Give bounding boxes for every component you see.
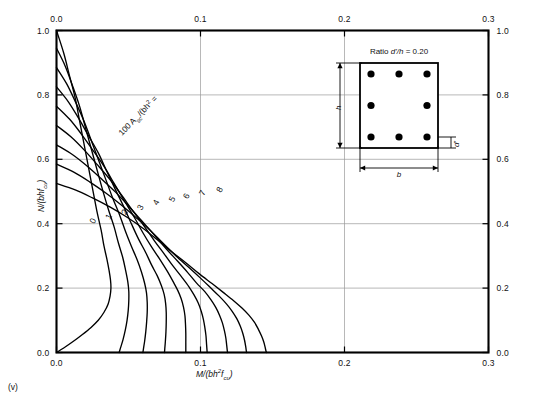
rebar-dot: [423, 102, 430, 109]
tick-label: 0.0: [37, 348, 49, 358]
tick-label: 0.3: [482, 358, 494, 368]
rebar-dot: [367, 70, 374, 77]
rebar-dot: [423, 70, 430, 77]
figure-caption: (v): [8, 382, 18, 392]
rebar-dot: [423, 133, 430, 140]
rebar-dot: [395, 70, 402, 77]
column-interaction-chart: 012345678100 Asc/(bh2 = 0.00.10.20.3 0.0…: [0, 0, 541, 411]
inset-dimension-b: b: [397, 170, 401, 179]
tick-label: 0.6: [37, 154, 49, 164]
inset-title: Ratio d'/h = 0.20: [370, 47, 428, 56]
tick-label: 0.0: [50, 358, 62, 368]
inset-dimension-h: h: [334, 105, 343, 109]
chart-canvas: 012345678100 Asc/(bh2 =: [0, 0, 541, 411]
rebar-dot: [367, 102, 374, 109]
tick-label: 0.8: [497, 90, 509, 100]
tick-label: 0.8: [37, 90, 49, 100]
tick-label: 0.1: [194, 358, 206, 368]
tick-label: 0.2: [37, 283, 49, 293]
y-axis-title: N/(bhfcu): [36, 180, 48, 212]
tick-label: 0.6: [497, 154, 509, 164]
tick-label: 0.2: [338, 14, 350, 24]
tick-label: 0.2: [338, 358, 350, 368]
tick-label: 0.0: [497, 348, 509, 358]
tick-label: 0.0: [50, 14, 62, 24]
x-axis-title: M/(bh2fcu): [196, 368, 233, 381]
tick-label: 0.3: [482, 14, 494, 24]
chart-background: [0, 0, 541, 411]
tick-label: 1.0: [497, 26, 509, 36]
tick-label: 0.2: [497, 283, 509, 293]
tick-label: 0.1: [194, 14, 206, 24]
tick-label: 0.4: [37, 219, 49, 229]
rebar-dot: [367, 133, 374, 140]
inset-dimension-dprime: d': [452, 141, 461, 147]
tick-label: 0.4: [497, 219, 509, 229]
rebar-dot: [395, 133, 402, 140]
tick-label: 1.0: [37, 26, 49, 36]
